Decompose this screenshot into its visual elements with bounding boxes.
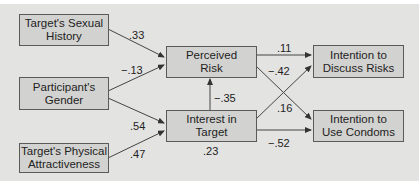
node-perceived-risk: Perceived Risk <box>166 46 257 78</box>
edge-label-gender-interest: .54 <box>130 120 145 132</box>
edge-label-gender-risk: −.13 <box>121 64 143 76</box>
edge-label-risk-discuss: .11 <box>277 42 291 54</box>
interest-r-squared-label: .23 <box>203 145 218 157</box>
edge-label-sexual-history-risk: .33 <box>129 29 144 41</box>
node-interest-in-target: Interest in Target <box>166 110 257 142</box>
edge-label-interest-discuss: .16 <box>277 102 292 114</box>
edge-label-risk-condoms: −.42 <box>268 65 290 77</box>
node-intention-discuss-risks: Intention to Discuss Risks <box>313 45 404 78</box>
node-target-physical-attractiveness: Target's Physical Attractiveness <box>19 143 109 173</box>
edge-label-interest-risk: −.35 <box>214 92 236 104</box>
edge-label-attractiveness-interest: .47 <box>130 148 145 160</box>
node-participant-gender: Participant's Gender <box>19 77 109 110</box>
edge-label-interest-condoms: −.52 <box>268 137 290 149</box>
node-intention-use-condoms: Intention to Use Condoms <box>313 110 404 142</box>
node-target-sexual-history: Target's Sexual History <box>19 14 109 46</box>
